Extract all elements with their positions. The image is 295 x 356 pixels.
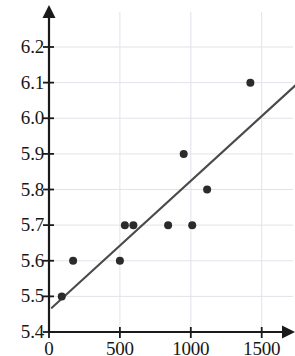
data-point: [116, 257, 124, 265]
x-tick-label: 1000: [161, 339, 221, 356]
y-tick-label: 6.0: [0, 108, 44, 127]
gridlines: [49, 12, 293, 332]
plot-area: [0, 0, 295, 356]
data-point: [69, 257, 77, 265]
x-tick-label: 1500: [232, 339, 292, 356]
y-tick-label: 6.1: [0, 73, 44, 92]
data-point: [121, 221, 129, 229]
data-point: [58, 292, 66, 300]
scatter-chart: 5.45.55.65.75.85.96.06.16.2050010001500: [0, 0, 295, 356]
y-tick-label: 5.9: [0, 144, 44, 163]
data-point: [129, 221, 137, 229]
y-tick-label: 5.5: [0, 286, 44, 305]
x-tick-label: 0: [19, 339, 79, 356]
y-tick-label: 5.6: [0, 251, 44, 270]
y-tick-label: 5.7: [0, 215, 44, 234]
data-point: [180, 150, 188, 158]
y-tick-label: 5.8: [0, 180, 44, 199]
data-point: [164, 221, 172, 229]
data-point: [188, 221, 196, 229]
data-point: [203, 186, 211, 194]
x-tick-label: 500: [90, 339, 150, 356]
data-point: [246, 79, 254, 87]
y-tick-label: 6.2: [0, 37, 44, 56]
